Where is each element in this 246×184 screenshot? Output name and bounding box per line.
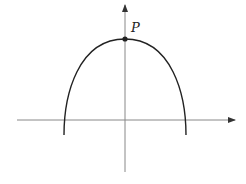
point-p-dot <box>122 36 127 41</box>
plot-svg <box>0 0 246 184</box>
diagram-canvas: P <box>0 0 246 184</box>
point-p-label: P <box>131 20 140 35</box>
